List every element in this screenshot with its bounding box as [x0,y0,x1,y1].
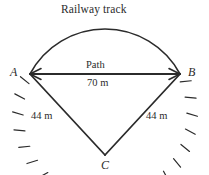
path-label: Path [86,60,105,71]
railway-arc [30,29,180,74]
left-side-length-label: 44 m [31,111,52,122]
base-length-label: 70 m [87,78,108,89]
vertex-label-b: B [188,66,195,78]
vertex-label-a: A [10,66,17,78]
right-side-length-label: 44 m [146,111,167,122]
vertex-label-c: C [101,159,109,171]
diagram-title: Railway track [61,4,126,16]
railway-track-diagram: Railway track Path 70 m 44 m 44 m A B C [0,0,209,175]
